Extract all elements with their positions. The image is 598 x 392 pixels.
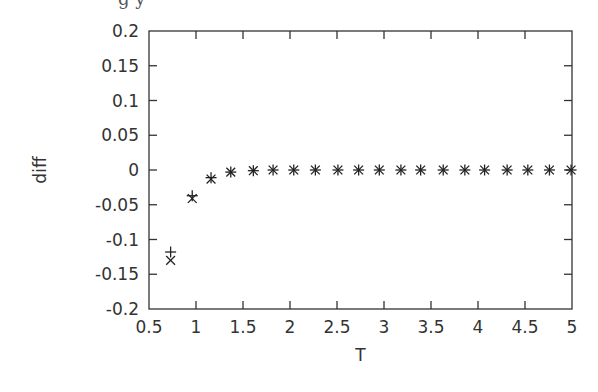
series-cross [166,166,575,265]
chart: -0.2-0.15-0.1-0.0500.050.10.150.2 0.511.… [0,0,598,392]
y-tick-label: 0.2 [112,21,139,41]
y-axis-label: diff [30,155,50,184]
x-tick-label: 1 [191,317,202,337]
plus-marker [206,172,217,183]
x-tick-label: 2.5 [323,317,350,337]
x-tick-label: 5 [567,317,578,337]
x-tick-label: 4.5 [511,317,538,337]
x-tick-label: 4 [473,317,484,337]
x-axis-label: T [354,345,366,365]
x-tick-labels: 0.511.522.533.544.55 [135,317,577,337]
y-tick-labels: -0.2-0.15-0.1-0.0500.050.10.150.2 [95,21,139,319]
x-tick-label: 3.5 [417,317,444,337]
y-tick-label: 0.1 [112,91,139,111]
y-tick-label: -0.2 [106,299,139,319]
x-tick-label: 3 [379,317,390,337]
y-tick-label: -0.15 [95,264,139,284]
plus-marker [187,190,198,201]
y-tick-label: 0.05 [101,125,139,145]
x-tick-label: 1.5 [229,317,256,337]
y-tick-label: -0.05 [95,195,139,215]
x-tick-label: 2 [285,317,296,337]
x-tick-label: 0.5 [135,317,162,337]
y-tick-label: -0.1 [106,230,139,250]
series-plus [165,165,576,258]
data-points [165,165,576,265]
y-tick-label: 0.15 [101,56,139,76]
y-tick-label: 0 [128,160,139,180]
